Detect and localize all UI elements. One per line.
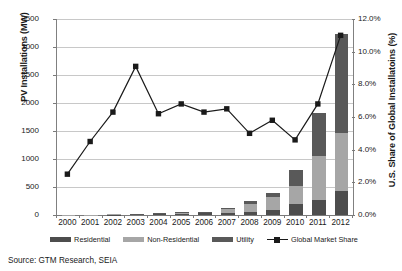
y-tick-mark-right — [352, 19, 355, 20]
line-marker-2006 — [201, 109, 206, 114]
source-note: Source: GTM Research, SEIA — [8, 256, 117, 265]
line-path — [67, 35, 340, 174]
legend-label: Residential — [74, 235, 110, 244]
legend-line-marker-icon — [267, 236, 288, 243]
y-tick-label-right-8.0: 8.0% — [358, 79, 394, 88]
legend-item-residential[interactable]: Residential — [50, 235, 110, 244]
x-tick-mark — [102, 215, 103, 218]
line-marker-2004 — [156, 111, 161, 116]
x-tick-mark — [261, 215, 262, 218]
y-tick-label-right-2.0: 2.0% — [358, 177, 394, 186]
line-marker-2012 — [338, 33, 343, 38]
y-tick-label-left-3500: 3500 — [5, 14, 39, 23]
y-tick-label-left-2500: 2500 — [5, 70, 39, 79]
line-marker-2003 — [133, 64, 138, 69]
y-tick-mark-right — [352, 117, 355, 118]
line-marker-2011 — [315, 101, 320, 106]
x-tick-mark — [79, 215, 80, 218]
x-tick-mark — [352, 215, 353, 218]
line-series-global-market-share — [56, 19, 352, 215]
legend-item-global-market-share[interactable]: Global Market Share — [267, 235, 358, 244]
legend-item-utility[interactable]: Utility — [212, 235, 254, 244]
legend-label: Global Market Share — [291, 235, 358, 244]
x-tick-mark — [329, 215, 330, 218]
y-tick-label-right-6.0: 6.0% — [358, 112, 394, 121]
line-marker-2002 — [110, 109, 115, 114]
y-tick-label-right-12.0: 12.0% — [358, 14, 394, 23]
y-tick-label-left-2000: 2000 — [5, 98, 39, 107]
x-tick-mark — [170, 215, 171, 218]
chart-legend: ResidentialNon-ResidentialUtilityGlobal … — [56, 233, 352, 245]
x-tick-mark — [284, 215, 285, 218]
line-marker-2000 — [65, 171, 70, 176]
legend-swatch-icon — [212, 237, 233, 242]
line-marker-2001 — [87, 139, 92, 144]
y-tick-mark-right — [352, 84, 355, 85]
y-tick-label-left-0: 0 — [5, 210, 39, 219]
y-tick-mark-right — [352, 52, 355, 53]
y-tick-mark-right — [352, 182, 355, 183]
legend-label: Non-Residential — [147, 235, 199, 244]
legend-swatch-icon — [50, 237, 71, 242]
legend-label: Utility — [236, 235, 254, 244]
x-tick-mark — [306, 215, 307, 218]
line-marker-2010 — [292, 137, 297, 142]
y-tick-label-left-1000: 1000 — [5, 154, 39, 163]
x-tick-mark — [215, 215, 216, 218]
x-tick-mark — [124, 215, 125, 218]
x-tick-mark — [193, 215, 194, 218]
line-marker-2005 — [179, 101, 184, 106]
y-tick-label-right-10.0: 10.0% — [358, 47, 394, 56]
legend-swatch-icon — [123, 237, 144, 242]
x-tick-mark — [238, 215, 239, 218]
line-marker-2008 — [247, 131, 252, 136]
y-tick-label-right-4.0: 4.0% — [358, 145, 394, 154]
line-marker-2009 — [270, 118, 275, 123]
y-tick-label-left-3000: 3000 — [5, 42, 39, 51]
legend-item-non-residential[interactable]: Non-Residential — [123, 235, 199, 244]
y-tick-label-right-0.0: 0.0% — [358, 210, 394, 219]
y-tick-label-left-500: 500 — [5, 182, 39, 191]
x-tick-label-2012: 2012 — [327, 218, 355, 227]
y-tick-label-left-1500: 1500 — [5, 126, 39, 135]
y-tick-mark-right — [352, 150, 355, 151]
x-tick-mark — [147, 215, 148, 218]
line-marker-2007 — [224, 106, 229, 111]
x-tick-mark — [56, 215, 57, 218]
